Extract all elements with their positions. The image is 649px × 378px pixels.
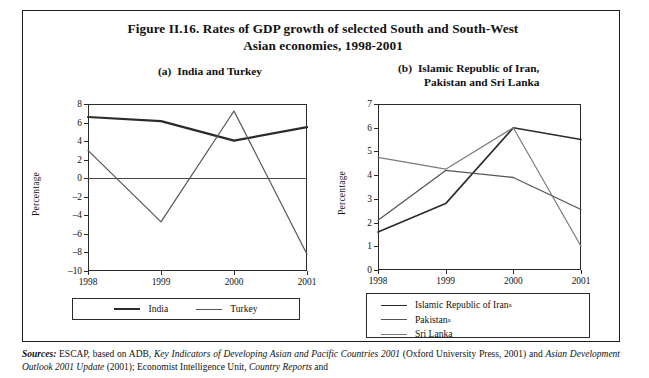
- legend-label: Islamic Republic of Iran: [415, 299, 509, 311]
- x-tick-mark: [446, 270, 447, 274]
- legend-swatch-icon: [381, 334, 407, 335]
- legend-item: Sri Lanka: [381, 328, 589, 340]
- y-tick-mark: [84, 141, 88, 142]
- x-tick-label: 1999: [152, 277, 171, 287]
- legend-swatch-icon: [381, 305, 407, 306]
- x-tick-label: 2001: [572, 276, 591, 286]
- x-tick-label: 1999: [436, 276, 455, 286]
- y-tick-mark: [84, 160, 88, 161]
- y-tick-mark: [374, 246, 378, 247]
- y-tick-label: –10: [54, 266, 82, 276]
- y-tick-label: –4: [54, 210, 82, 220]
- y-tick-label: 5: [344, 146, 372, 156]
- y-tick-mark: [374, 199, 378, 200]
- x-tick-mark: [88, 271, 89, 275]
- y-tick-label: –6: [54, 229, 82, 239]
- y-tick-mark: [84, 252, 88, 253]
- legend-item: Turkey: [196, 303, 257, 315]
- x-tick-label: 1998: [369, 276, 388, 286]
- y-tick-mark: [84, 123, 88, 124]
- y-tick-mark: [84, 197, 88, 198]
- y-tick-label: –8: [54, 247, 82, 257]
- y-tick-label: 0: [54, 173, 82, 183]
- sources-text-1: ESCAP, based on ADB,: [56, 349, 154, 359]
- legend-footnote-mark: a: [448, 314, 451, 326]
- legend-label: India: [148, 303, 168, 315]
- y-tick-mark: [84, 234, 88, 235]
- x-tick-label: 2000: [504, 276, 523, 286]
- legend-label: Sri Lanka: [415, 328, 453, 340]
- series-line: [378, 128, 581, 232]
- x-tick-label: 2000: [225, 277, 244, 287]
- y-tick-label: 6: [344, 123, 372, 133]
- sources-italic-3: Country Reports: [249, 362, 312, 372]
- y-tick-mark: [374, 128, 378, 129]
- zero-reference-line: [88, 178, 307, 179]
- y-tick-label: 0: [344, 265, 372, 275]
- y-tick-label: 3: [344, 194, 372, 204]
- y-tick-label: 6: [54, 118, 82, 128]
- panel-b-legend: Islamic Republic of IranaPakistanaSri La…: [366, 293, 590, 338]
- series-line: [378, 170, 581, 220]
- x-tick-mark: [513, 270, 514, 274]
- sources-text-4: and: [312, 362, 328, 372]
- y-tick-mark: [374, 151, 378, 152]
- legend-item: India: [114, 303, 168, 315]
- sources-italic-1: Key Indicators of Developing Asian and P…: [154, 349, 400, 359]
- figure-page: Figure II.16. Rates of GDP growth of sel…: [0, 0, 649, 378]
- legend-label: Turkey: [230, 303, 257, 315]
- y-tick-label: 7: [344, 99, 372, 109]
- sources-footnote: Sources: ESCAP, based on ADB, Key Indica…: [22, 348, 620, 374]
- y-tick-mark: [84, 104, 88, 105]
- panel-a-legend: IndiaTurkey: [72, 298, 300, 320]
- x-tick-mark: [378, 270, 379, 274]
- sources-text-3: (2001); Economist Intelligence Unit,: [104, 362, 249, 372]
- legend-swatch-icon: [381, 319, 407, 320]
- y-tick-label: 2: [54, 155, 82, 165]
- y-tick-mark: [374, 175, 378, 176]
- x-tick-mark: [307, 271, 308, 275]
- y-tick-mark: [84, 215, 88, 216]
- y-tick-label: 4: [54, 136, 82, 146]
- legend-swatch-icon: [114, 308, 140, 310]
- y-tick-mark: [374, 223, 378, 224]
- y-tick-label: 2: [344, 218, 372, 228]
- series-line: [378, 128, 581, 247]
- y-tick-mark: [374, 104, 378, 105]
- y-tick-label: –2: [54, 192, 82, 202]
- x-tick-label: 1998: [79, 277, 98, 287]
- y-tick-label: 4: [344, 170, 372, 180]
- x-tick-mark: [581, 270, 582, 274]
- legend-footnote-mark: a: [509, 299, 512, 311]
- sources-text-2: (Oxford University Press, 2001) and: [400, 349, 545, 359]
- y-tick-label: 1: [344, 241, 372, 251]
- y-tick-label: 8: [54, 99, 82, 109]
- legend-item: Pakistana: [381, 314, 589, 326]
- legend-item: Islamic Republic of Irana: [381, 299, 589, 311]
- sources-label: Sources:: [22, 349, 56, 359]
- legend-swatch-icon: [196, 309, 222, 310]
- chart-panel-b: Percentage: [0, 0, 330, 300]
- legend-label: Pakistan: [415, 314, 448, 326]
- x-tick-mark: [161, 271, 162, 275]
- x-tick-mark: [234, 271, 235, 275]
- x-tick-label: 2001: [298, 277, 317, 287]
